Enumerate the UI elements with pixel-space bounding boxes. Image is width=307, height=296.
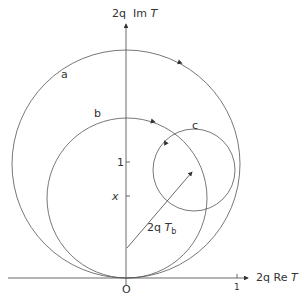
vector-label: 2q Tb xyxy=(147,222,176,236)
x-tick-1-label: 1 xyxy=(234,283,240,292)
arrow-c-icon xyxy=(162,139,169,146)
y-tick-1-label: 1 xyxy=(117,157,124,168)
vector-tb xyxy=(127,172,192,248)
diagram-canvas xyxy=(0,0,307,296)
circle-b xyxy=(47,118,207,278)
origin-label: O xyxy=(122,284,131,295)
curve-label-b: b xyxy=(94,108,101,119)
x-axis-label: 2q Re T xyxy=(256,272,298,283)
y-axis-label: 2q Im T xyxy=(112,8,157,19)
curve-label-c: c xyxy=(192,120,198,131)
y-tick-x-label: x xyxy=(112,191,119,202)
arrow-b-icon xyxy=(150,119,156,125)
curve-label-a: a xyxy=(61,69,68,80)
